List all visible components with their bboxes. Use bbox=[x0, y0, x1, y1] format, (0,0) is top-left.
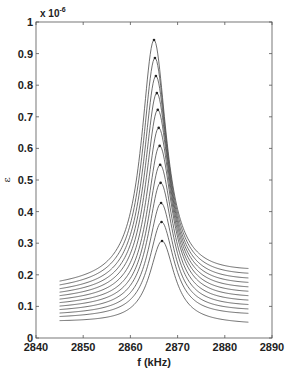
peak-marker bbox=[154, 57, 157, 60]
peak-marker bbox=[158, 145, 161, 148]
y-tick-label: 0.7 bbox=[18, 111, 33, 123]
x-tick-label: 2860 bbox=[118, 341, 142, 353]
chart: 28402850286028702880289000.10.20.30.40.5… bbox=[0, 0, 295, 372]
x-axis-label: f (kHz) bbox=[137, 356, 171, 368]
y-tick-label: 0.8 bbox=[18, 79, 33, 91]
peak-marker bbox=[160, 221, 163, 224]
peak-marker bbox=[156, 92, 159, 95]
y-tick-label: 0.6 bbox=[18, 142, 33, 154]
peak-marker bbox=[159, 182, 162, 185]
y-tick-label: 0 bbox=[27, 332, 33, 344]
peak-marker bbox=[155, 75, 158, 78]
y-multiplier-label: x 10-6 bbox=[40, 6, 66, 19]
peak-marker bbox=[156, 109, 159, 112]
peak-marker bbox=[153, 39, 156, 42]
y-tick-label: 1 bbox=[27, 16, 33, 28]
y-axis-label: ε bbox=[1, 177, 12, 182]
x-tick-label: 2890 bbox=[260, 341, 284, 353]
y-tick-label: 0.3 bbox=[18, 237, 33, 249]
y-tick-label: 0.2 bbox=[18, 269, 33, 281]
y-tick-label: 0.5 bbox=[18, 174, 33, 186]
peak-marker bbox=[160, 202, 163, 205]
x-tick-label: 2850 bbox=[71, 341, 95, 353]
y-tick-label: 0.4 bbox=[18, 206, 34, 218]
y-tick-label: 0.1 bbox=[18, 300, 33, 312]
peak-marker bbox=[157, 127, 160, 130]
x-tick-label: 2870 bbox=[165, 341, 189, 353]
peak-marker bbox=[159, 164, 162, 167]
x-tick-label: 2880 bbox=[213, 341, 237, 353]
peak-marker bbox=[161, 240, 164, 243]
y-tick-label: 0.9 bbox=[18, 48, 33, 60]
